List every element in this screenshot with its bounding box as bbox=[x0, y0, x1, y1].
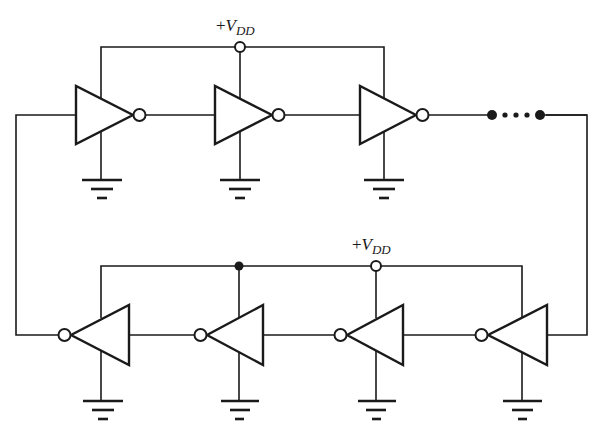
top-vdd-rail bbox=[101, 42, 384, 98]
ground-icon bbox=[364, 180, 404, 198]
vdd-plus: + bbox=[216, 16, 226, 35]
bottom-vdd-label: +VDD bbox=[352, 236, 391, 256]
top-inverter-1 bbox=[76, 86, 146, 198]
bottom-vdd-rail bbox=[101, 261, 522, 318]
ground-icon bbox=[358, 401, 396, 419]
ground-icon bbox=[220, 180, 260, 198]
vdd-symbol: V bbox=[362, 235, 372, 254]
top-inverter-2 bbox=[215, 86, 285, 198]
junction-dot bbox=[235, 262, 244, 271]
ground-icon bbox=[82, 180, 122, 198]
bottom-vdd-terminal bbox=[371, 261, 381, 271]
top-vdd-label: +VDD bbox=[216, 17, 255, 37]
bottom-inverter-2 bbox=[195, 305, 264, 419]
top-inverter-3 bbox=[360, 86, 429, 198]
bottom-inverter-1 bbox=[59, 305, 130, 419]
vdd-symbol: V bbox=[226, 16, 236, 35]
top-vdd-terminal bbox=[235, 42, 245, 52]
bottom-inverter-3 bbox=[335, 305, 404, 419]
bottom-inverter-4 bbox=[476, 305, 548, 419]
ground-icon bbox=[503, 401, 542, 419]
ground-icon bbox=[221, 401, 259, 419]
vdd-subscript: DD bbox=[236, 23, 255, 38]
continuation-ellipsis bbox=[487, 110, 545, 120]
schematic-canvas bbox=[0, 0, 590, 429]
ground-icon bbox=[83, 401, 123, 419]
ring-oscillator-diagram: +VDD +VDD bbox=[0, 0, 590, 429]
vdd-subscript: DD bbox=[372, 242, 391, 257]
vdd-plus: + bbox=[352, 235, 362, 254]
